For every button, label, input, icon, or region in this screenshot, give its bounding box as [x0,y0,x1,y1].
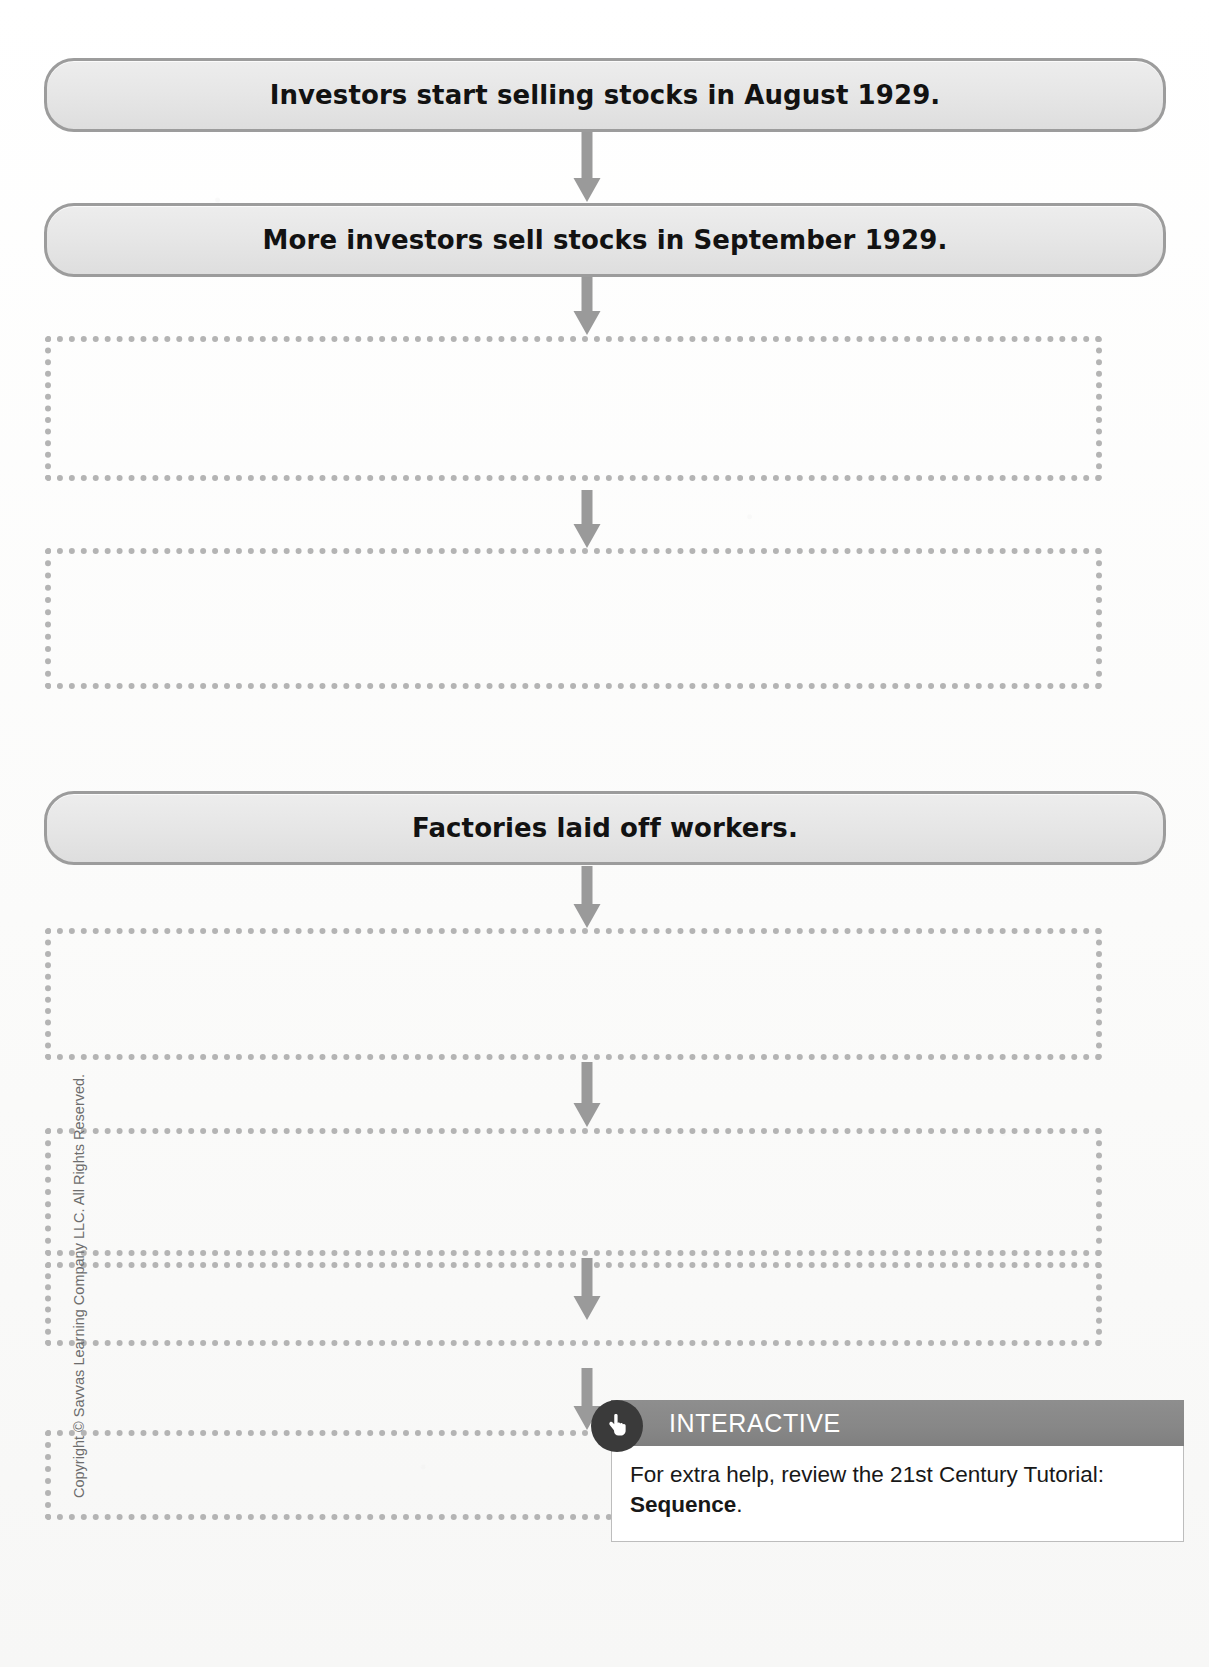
interactive-banner: INTERACTIVE [611,1400,1184,1446]
interactive-callout[interactable]: INTERACTIVE For extra help, review the 2… [611,1400,1184,1542]
flow-arrow-down-icon [570,490,604,548]
copyright-notice: Copyright © Savvas Learning Company LLC.… [71,1098,87,1498]
interactive-callout-body: For extra help, review the 21st Century … [611,1446,1184,1542]
flow-step-blank-answer-box[interactable] [45,336,1102,481]
flow-arrow-down-icon [570,1258,604,1320]
callout-text-suffix: . [736,1492,742,1517]
flow-step-filled: Investors start selling stocks in August… [44,58,1166,132]
flow-step-blank-answer-box[interactable] [45,928,1102,1060]
flow-step-label: More investors sell stocks in September … [263,226,948,255]
flow-arrow-down-icon [570,132,604,202]
flow-step-label: Factories laid off workers. [412,814,798,843]
interactive-banner-label: INTERACTIVE [669,1409,841,1438]
callout-text-prefix: For extra help, review the 21st Century … [630,1462,1104,1487]
flow-step-filled: Factories laid off workers. [44,791,1166,865]
flow-arrow-down-icon [570,277,604,335]
flow-step-blank-answer-box[interactable] [45,1128,1102,1256]
flow-arrow-down-icon [570,866,604,928]
flow-step-blank-answer-box[interactable] [45,548,1102,689]
flow-step-filled: More investors sell stocks in September … [44,203,1166,277]
callout-text-emphasis: Sequence [630,1492,736,1517]
interactive-callout-text: For extra help, review the 21st Century … [630,1460,1165,1519]
hand-pointer-icon [591,1400,643,1452]
flow-arrow-down-icon [570,1062,604,1127]
flow-step-label: Investors start selling stocks in August… [270,81,941,110]
